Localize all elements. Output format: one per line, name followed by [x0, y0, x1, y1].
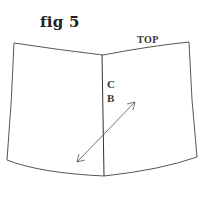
grainline-arrow-icon [77, 102, 135, 162]
pattern-piece-drawing [0, 0, 204, 224]
figure-title: fig 5 [40, 13, 80, 31]
bottom-edge [7, 157, 197, 176]
right-edge [189, 42, 197, 157]
top-edge [14, 42, 189, 55]
top-label: TOP [137, 34, 159, 45]
c-label: C [107, 78, 115, 90]
diagram-canvas: fig 5 TOP C B [0, 0, 204, 224]
center-back-line [102, 55, 104, 176]
b-label: B [107, 92, 114, 104]
left-edge [7, 43, 14, 160]
